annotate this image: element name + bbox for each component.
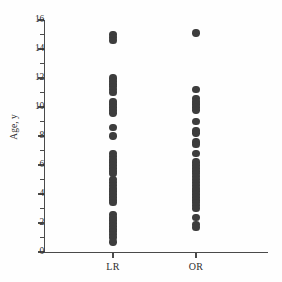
data-point xyxy=(109,109,116,116)
data-point xyxy=(109,216,116,223)
data-point xyxy=(192,182,199,189)
y-tick-label: 8 xyxy=(14,131,44,141)
data-point xyxy=(192,164,199,171)
data-point xyxy=(109,170,116,177)
y-tick-minor xyxy=(40,92,44,93)
y-tick-minor xyxy=(40,121,44,122)
data-point xyxy=(192,224,199,231)
data-point xyxy=(192,193,199,200)
chart-figure: Age, y 0246810121416 LROR xyxy=(0,0,282,282)
y-tick-label: 10 xyxy=(14,102,44,112)
data-point xyxy=(109,34,116,41)
data-point xyxy=(192,86,199,93)
data-point xyxy=(192,95,199,102)
data-point xyxy=(109,83,116,90)
y-tick-label: 4 xyxy=(14,189,44,199)
data-point xyxy=(109,103,116,110)
data-point xyxy=(109,187,116,194)
data-point xyxy=(109,77,116,84)
data-point xyxy=(192,179,199,186)
x-tick-label-or: OR xyxy=(176,261,216,272)
data-point xyxy=(192,127,199,134)
data-point xyxy=(109,124,116,131)
data-point xyxy=(192,138,199,145)
data-point xyxy=(109,89,116,96)
data-point xyxy=(109,167,116,174)
x-tick-mark-or xyxy=(195,252,196,258)
data-point xyxy=(192,167,199,174)
data-point xyxy=(192,103,199,110)
data-point xyxy=(109,161,116,168)
data-point xyxy=(109,234,116,241)
data-point xyxy=(192,176,199,183)
data-point xyxy=(192,196,199,203)
data-point xyxy=(192,199,199,206)
data-point xyxy=(192,150,199,157)
data-point xyxy=(109,179,116,186)
data-point xyxy=(192,106,199,113)
y-tick-label: 6 xyxy=(14,160,44,170)
data-point xyxy=(109,238,116,245)
y-tick-minor xyxy=(40,237,44,238)
data-point xyxy=(109,231,116,238)
y-tick-label: 12 xyxy=(14,73,44,83)
data-point xyxy=(192,158,199,165)
data-point xyxy=(109,193,116,200)
data-point xyxy=(192,118,199,125)
data-point xyxy=(109,158,116,165)
data-point xyxy=(109,150,116,157)
data-point xyxy=(192,98,199,105)
data-point xyxy=(109,86,116,93)
data-point xyxy=(192,187,199,194)
data-point xyxy=(109,228,116,235)
y-tick-minor xyxy=(40,150,44,151)
data-point xyxy=(192,202,199,209)
data-point xyxy=(109,222,116,229)
y-tick-minor xyxy=(40,179,44,180)
data-point xyxy=(109,190,116,197)
data-point xyxy=(109,80,116,87)
data-point xyxy=(109,156,116,163)
data-point xyxy=(109,98,116,105)
x-tick-label-lr: LR xyxy=(93,261,133,272)
data-point xyxy=(109,211,116,218)
data-point xyxy=(109,225,116,232)
y-tick-label: 14 xyxy=(14,44,44,54)
data-point xyxy=(109,185,116,192)
x-tick-mark-lr xyxy=(112,252,113,258)
data-point xyxy=(192,141,199,148)
y-tick-minor xyxy=(40,34,44,35)
data-point xyxy=(109,132,116,139)
data-point xyxy=(192,161,199,168)
data-point xyxy=(192,170,199,177)
data-point xyxy=(192,190,199,197)
data-point xyxy=(109,100,116,107)
y-tick-label: 0 xyxy=(14,247,44,257)
data-point xyxy=(109,74,116,81)
data-point xyxy=(109,153,116,160)
data-point xyxy=(192,221,199,228)
x-axis-line xyxy=(44,252,268,253)
data-point xyxy=(109,199,116,206)
y-axis-line xyxy=(44,20,45,252)
data-point xyxy=(192,185,199,192)
data-point xyxy=(109,37,116,44)
data-point xyxy=(192,214,199,221)
y-tick-label: 16 xyxy=(14,15,44,25)
data-point xyxy=(109,182,116,189)
data-point xyxy=(109,106,116,113)
data-point xyxy=(109,219,116,226)
data-point xyxy=(192,129,199,136)
y-tick-minor xyxy=(40,208,44,209)
data-point xyxy=(192,173,199,180)
data-point xyxy=(109,214,116,221)
data-point xyxy=(109,164,116,171)
y-tick-minor xyxy=(40,63,44,64)
data-point xyxy=(109,31,116,38)
data-point xyxy=(192,29,199,36)
y-tick-label: 2 xyxy=(14,218,44,228)
data-point xyxy=(109,176,116,183)
data-point xyxy=(192,205,199,212)
data-point xyxy=(109,196,116,203)
data-point xyxy=(192,100,199,107)
